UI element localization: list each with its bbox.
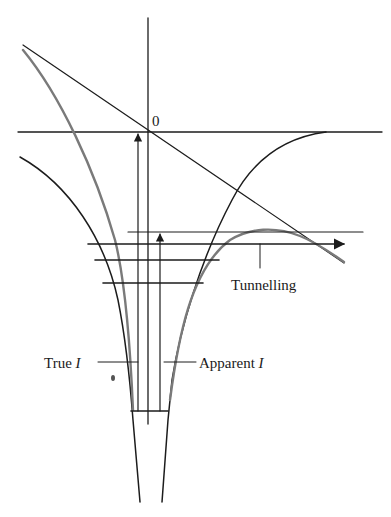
left-well-wall xyxy=(20,157,140,502)
ink-speck xyxy=(111,375,115,381)
apparent-i-prefix: Apparent xyxy=(199,355,259,371)
apparent-i-symbol: I xyxy=(258,355,265,371)
true-i-label: True I xyxy=(44,355,82,371)
field-line xyxy=(23,45,344,263)
tunnelling-label: Tunnelling xyxy=(231,277,297,293)
true-i-symbol: I xyxy=(75,355,82,371)
origin-label: 0 xyxy=(152,113,160,129)
true-i-prefix: True xyxy=(44,355,76,371)
apparent-i-label: Apparent I xyxy=(199,355,265,371)
potential-well-diagram: 0 Tunnelling True I Apparent I xyxy=(0,0,391,517)
modified-potential-barrier xyxy=(170,230,344,400)
